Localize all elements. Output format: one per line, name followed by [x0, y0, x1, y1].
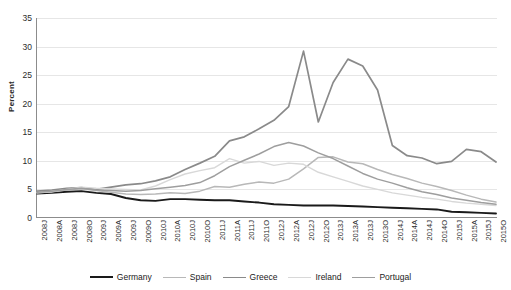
legend-swatch-icon — [223, 277, 246, 278]
y-axis-tick-label: 25 — [8, 70, 32, 80]
legend-swatch-icon — [288, 277, 311, 278]
y-axis-tick-label: 10 — [8, 156, 32, 166]
legend-label: Portugal — [379, 272, 411, 282]
legend-label: Ireland — [315, 272, 341, 282]
legend-item-greece[interactable]: Greece — [223, 272, 278, 282]
legend-swatch-icon — [90, 276, 113, 278]
legend-label: Spain — [190, 272, 212, 282]
series-lines — [36, 18, 497, 218]
series-line-portugal — [37, 143, 496, 205]
y-axis-tick-label: 5 — [8, 184, 32, 194]
series-line-greece — [37, 51, 496, 191]
x-axis-tick-labels: 2008J2008A2008J2008O2009J2009A2009J2009O… — [36, 220, 497, 264]
y-axis-tick-label: 20 — [8, 99, 32, 109]
x-axis-tick-label: 2015O — [499, 220, 511, 260]
legend-item-ireland[interactable]: Ireland — [288, 272, 341, 282]
y-axis-tick-label: 0 — [8, 213, 32, 223]
y-axis-tick-label: 35 — [8, 13, 32, 23]
legend-item-portugal[interactable]: Portugal — [352, 272, 411, 282]
plot-area — [36, 18, 497, 218]
chart-legend: GermanySpainGreeceIrelandPortugal — [0, 268, 501, 286]
legend-swatch-icon — [352, 277, 375, 278]
legend-item-germany[interactable]: Germany — [90, 272, 152, 282]
legend-item-spain[interactable]: Spain — [163, 272, 212, 282]
legend-label: Greece — [250, 272, 278, 282]
y-axis-tick-label: 15 — [8, 127, 32, 137]
legend-swatch-icon — [163, 277, 186, 278]
y-axis-tick-label: 30 — [8, 42, 32, 52]
series-line-germany — [37, 191, 496, 213]
legend-label: Germany — [117, 272, 152, 282]
